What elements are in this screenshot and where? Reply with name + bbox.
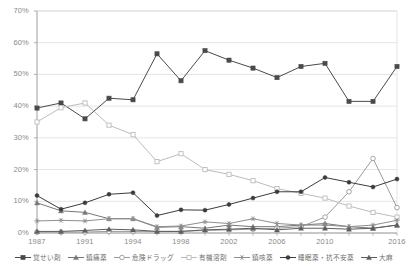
chart-legend: 覚せい剤鎮痛薬危険ドラッグ有機溶剤鎮咳薬睡眠薬・抗不安薬大麻 bbox=[0, 248, 407, 266]
legend-label: 大麻 bbox=[379, 252, 393, 262]
chart-plot-area bbox=[0, 0, 407, 266]
x-tick-label: 1994 bbox=[113, 237, 153, 246]
legend-label: 覚せい剤 bbox=[33, 252, 61, 262]
legend-label: 有機溶剤 bbox=[199, 252, 227, 262]
legend-marker-icon bbox=[114, 253, 130, 262]
line-chart: 0%10%20%30%40%50%60%70% 1987199119941998… bbox=[0, 0, 407, 266]
legend-marker-icon bbox=[280, 253, 296, 262]
y-tick-label: 0% bbox=[3, 228, 29, 237]
legend-label: 睡眠薬・抗不安薬 bbox=[298, 252, 354, 262]
legend-item-1[interactable]: 鎮痛薬 bbox=[68, 252, 107, 262]
y-tick-label: 10% bbox=[3, 196, 29, 205]
legend-marker-icon bbox=[181, 253, 197, 262]
legend-item-3[interactable]: 有機溶剤 bbox=[181, 252, 227, 262]
legend-label: 危険ドラッグ bbox=[132, 252, 174, 262]
legend-marker-icon bbox=[15, 253, 31, 262]
legend-marker-icon bbox=[361, 253, 377, 262]
legend-item-5[interactable]: 睡眠薬・抗不安薬 bbox=[280, 252, 354, 262]
legend-item-2[interactable]: 危険ドラッグ bbox=[114, 252, 174, 262]
x-tick-label: 1998 bbox=[161, 237, 201, 246]
x-tick-label: 1991 bbox=[65, 237, 105, 246]
legend-item-4[interactable]: 鎮咳薬 bbox=[234, 252, 273, 262]
legend-label: 鎮咳薬 bbox=[252, 252, 273, 262]
x-tick-label: 2016 bbox=[377, 237, 407, 246]
y-tick-label: 40% bbox=[3, 101, 29, 110]
y-tick-label: 60% bbox=[3, 38, 29, 47]
x-tick-label: 1987 bbox=[17, 237, 57, 246]
y-tick-label: 50% bbox=[3, 69, 29, 78]
x-tick-label: 2010 bbox=[305, 237, 345, 246]
x-tick-label: 2006 bbox=[257, 237, 297, 246]
legend-marker-icon bbox=[234, 253, 250, 262]
y-tick-label: 30% bbox=[3, 133, 29, 142]
x-tick-label: 2002 bbox=[209, 237, 249, 246]
y-tick-label: 70% bbox=[3, 6, 29, 15]
legend-item-6[interactable]: 大麻 bbox=[361, 252, 393, 262]
legend-item-0[interactable]: 覚せい剤 bbox=[15, 252, 61, 262]
legend-marker-icon bbox=[68, 253, 84, 262]
y-tick-label: 20% bbox=[3, 165, 29, 174]
legend-label: 鎮痛薬 bbox=[86, 252, 107, 262]
